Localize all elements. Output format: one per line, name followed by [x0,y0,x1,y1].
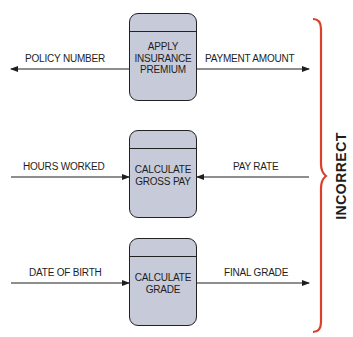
flow-label-payment-amount: PAYMENT AMOUNT [205,53,294,64]
process-calculate-grade: CALCULATE GRADE [129,238,197,326]
flow-label-hours-worked: HOURS WORKED [23,161,105,172]
verdict-container: INCORRECT [331,88,351,264]
curly-brace [313,19,326,332]
process-apply-insurance-premium: APPLY INSURANCE PREMIUM [129,13,197,101]
process-label: CALCULATE GRADE [130,256,196,325]
flow-label-date-of-birth: DATE OF BIRTH [29,267,102,278]
process-label: APPLY INSURANCE PREMIUM [130,31,196,100]
flow-label-pay-rate: PAY RATE [233,161,278,172]
verdict-label: INCORRECT [333,132,349,220]
flow-label-policy-number: POLICY NUMBER [25,53,105,64]
process-calculate-gross-pay: CALCULATE GROSS PAY [129,130,197,218]
process-label: CALCULATE GROSS PAY [130,148,196,217]
flow-label-final-grade: FINAL GRADE [224,267,288,278]
